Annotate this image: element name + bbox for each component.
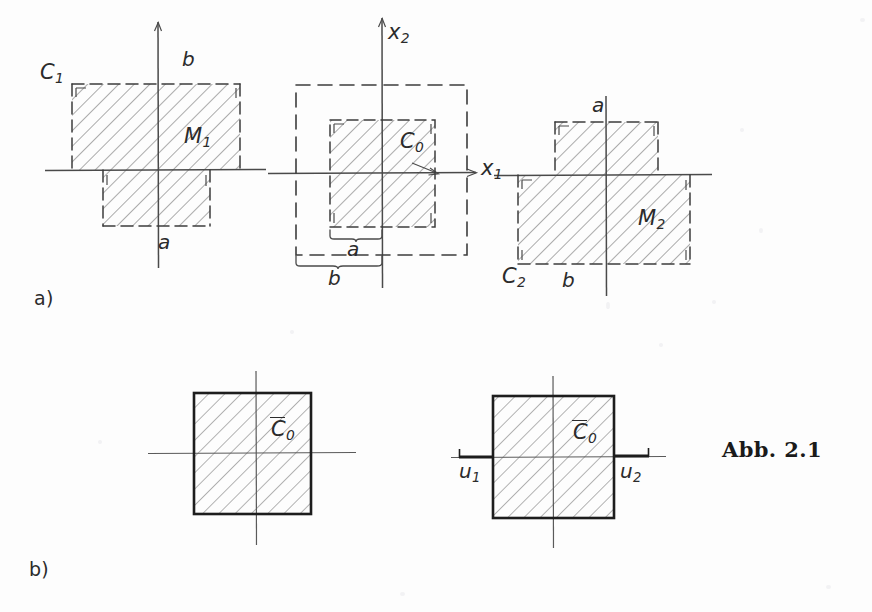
label-brace-b: b [328,268,341,288]
panel-bottom-left [148,371,356,545]
scan-speckle [712,300,716,304]
label-c0: C0 [400,131,424,155]
figure-caption: Abb. 2.1 [722,437,822,462]
label-axis-x2: x2 [388,22,410,46]
scan-speckle [659,343,663,347]
label-dim-a-right: a [592,95,604,115]
scan-speckle [826,585,831,589]
label-u1: u1 [459,461,480,484]
label-m1: M1 [184,126,211,150]
panel-top-right [494,96,712,296]
scan-speckle [860,18,865,22]
label-axis-x1: x1 [481,158,503,182]
m2-hatch-fill [518,122,690,264]
panel-top-left [45,22,266,268]
segment-u2 [614,448,649,457]
label-m2: M2 [638,208,665,232]
scan-speckle [740,128,744,132]
part-label-b: b) [29,560,49,579]
label-dim-a-left: a [158,232,170,252]
label-c2: C2 [502,266,526,290]
label-dim-b-left: b [182,49,195,69]
scan-speckle [290,330,294,334]
scan-speckle [606,302,610,309]
panel-top-middle [268,18,477,288]
figure-canvas [0,0,872,612]
label-brace-a: a [347,239,359,259]
label-dim-b-right: b [562,270,575,290]
label-c1: C1 [40,62,64,86]
label-u2: u2 [620,461,641,484]
scan-speckle [98,440,102,444]
label-c0bar-right: C0 [573,420,597,446]
figure-page: C1 b M1 a a) x2 x1 C0 a b a M2 C2 b C0 C… [0,0,872,612]
m1-hatch-fill [72,84,240,226]
label-c0bar-left: C0 [271,417,295,443]
segment-u1 [459,449,493,458]
scan-speckle [400,592,405,596]
part-label-a: a) [34,289,54,308]
scan-speckle [759,228,763,233]
